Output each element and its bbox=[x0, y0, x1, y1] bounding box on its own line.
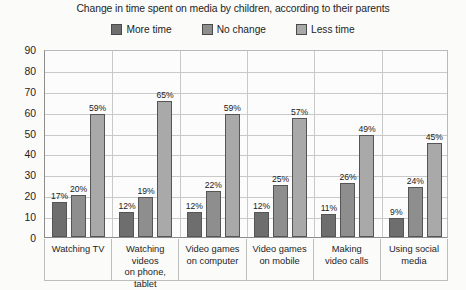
category-label: Video gameson computer bbox=[185, 244, 239, 267]
bar-item: 26% bbox=[340, 183, 355, 237]
category-label: Makingvideo calls bbox=[325, 244, 368, 267]
bar-value-label: 25% bbox=[272, 174, 289, 184]
y-axis-tick-80: 80 bbox=[0, 65, 36, 76]
bar bbox=[187, 212, 202, 237]
bar-item: 12% bbox=[187, 212, 202, 237]
bar bbox=[340, 183, 355, 237]
bar-item: 25% bbox=[273, 185, 288, 237]
chart-legend: More time No change Less time bbox=[0, 24, 466, 35]
bar-item: 49% bbox=[359, 135, 374, 237]
bar bbox=[71, 195, 86, 237]
plot-area: 17%20%59%12%19%65%12%22%59%12%25%57%11%2… bbox=[44, 50, 448, 238]
bar-value-label: 26% bbox=[339, 172, 356, 182]
bar bbox=[90, 114, 105, 237]
bar bbox=[157, 101, 172, 237]
bar-item: 65% bbox=[157, 101, 172, 237]
bar-value-label: 9% bbox=[390, 207, 402, 217]
y-axis-tick-60: 60 bbox=[0, 107, 36, 118]
y-axis-tick-10: 10 bbox=[0, 212, 36, 223]
y-axis-tick-40: 40 bbox=[0, 149, 36, 160]
bar-group: 12%25%57% bbox=[247, 51, 314, 237]
bar bbox=[52, 202, 67, 238]
bar-item: 59% bbox=[90, 114, 105, 237]
bar-value-label: 12% bbox=[118, 201, 135, 211]
bar-item: 22% bbox=[206, 191, 221, 237]
legend-label-less-time: Less time bbox=[311, 24, 355, 35]
legend-label-more-time: More time bbox=[126, 24, 171, 35]
legend-item-more-time: More time bbox=[111, 24, 171, 35]
bar-value-label: 22% bbox=[205, 180, 222, 190]
bar-group: 12%19%65% bbox=[112, 51, 179, 237]
bar-value-label: 59% bbox=[224, 103, 241, 113]
bar-group: 9%24%45% bbox=[382, 51, 449, 237]
bar-item: 59% bbox=[225, 114, 240, 237]
bar-value-label: 49% bbox=[358, 124, 375, 134]
legend-swatch-less-time bbox=[296, 24, 307, 35]
bar-groups: 17%20%59%12%19%65%12%22%59%12%25%57%11%2… bbox=[45, 51, 447, 237]
category-label-cell: Makingvideo calls bbox=[314, 239, 381, 280]
bar bbox=[119, 212, 134, 237]
bar-item: 12% bbox=[119, 212, 134, 237]
bar-value-label: 12% bbox=[253, 201, 270, 211]
y-axis-tick-50: 50 bbox=[0, 128, 36, 139]
bar bbox=[254, 212, 269, 237]
bar bbox=[389, 218, 404, 237]
bar bbox=[138, 197, 153, 237]
bar-item: 12% bbox=[254, 212, 269, 237]
category-label: Using socialmedia bbox=[389, 244, 439, 267]
bar bbox=[225, 114, 240, 237]
legend-swatch-more-time bbox=[111, 24, 122, 35]
bar-value-label: 59% bbox=[89, 103, 106, 113]
bar-item: 45% bbox=[427, 143, 442, 237]
bar-item: 20% bbox=[71, 195, 86, 237]
bar-value-label: 45% bbox=[426, 132, 443, 142]
bar bbox=[206, 191, 221, 237]
bar bbox=[427, 143, 442, 237]
y-axis-tick-30: 30 bbox=[0, 170, 36, 181]
category-label: Video gameson mobile bbox=[253, 244, 307, 267]
legend-item-less-time: Less time bbox=[296, 24, 355, 35]
bar-value-label: 17% bbox=[51, 191, 68, 201]
bar bbox=[321, 214, 336, 237]
bar bbox=[273, 185, 288, 237]
bar-group: 12%22%59% bbox=[180, 51, 247, 237]
bar-value-label: 19% bbox=[137, 186, 154, 196]
chart-title: Change in time spent on media by childre… bbox=[0, 3, 466, 14]
bar-value-label: 11% bbox=[321, 203, 338, 213]
bar-value-label: 65% bbox=[156, 90, 173, 100]
bar-group: 11%26%49% bbox=[314, 51, 381, 237]
bar-item: 17% bbox=[52, 202, 67, 238]
bar-value-label: 24% bbox=[407, 176, 424, 186]
category-label: Watching TV bbox=[52, 244, 105, 256]
legend-label-no-change: No change bbox=[217, 24, 266, 35]
y-axis-tick-20: 20 bbox=[0, 191, 36, 202]
bar-item: 57% bbox=[292, 118, 307, 237]
category-label-cell: Using socialmedia bbox=[381, 239, 447, 280]
bar-value-label: 57% bbox=[291, 107, 308, 117]
y-axis-tick-90: 90 bbox=[0, 45, 36, 56]
category-label-cell: Video gameson mobile bbox=[247, 239, 314, 280]
legend-item-no-change: No change bbox=[202, 24, 266, 35]
category-axis: Watching TVWatching videoson phone, tabl… bbox=[44, 239, 448, 281]
bar-item: 24% bbox=[408, 187, 423, 237]
category-label-cell: Watching videoson phone, tablet bbox=[112, 239, 179, 280]
bar-item: 11% bbox=[321, 214, 336, 237]
bar-value-label: 12% bbox=[186, 201, 203, 211]
category-label-cell: Watching TV bbox=[45, 239, 112, 280]
bar-item: 9% bbox=[389, 218, 404, 237]
y-axis-tick-70: 70 bbox=[0, 86, 36, 97]
bar-value-label: 20% bbox=[70, 184, 87, 194]
y-axis-tick-0: 0 bbox=[0, 233, 36, 244]
y-axis-labels: 0102030405060708090 bbox=[0, 0, 40, 286]
bar bbox=[408, 187, 423, 237]
bar-group: 17%20%59% bbox=[45, 51, 112, 237]
bar bbox=[359, 135, 374, 237]
bar-item: 19% bbox=[138, 197, 153, 237]
category-label: Watching videoson phone, tablet bbox=[112, 244, 178, 290]
legend-swatch-no-change bbox=[202, 24, 213, 35]
bar bbox=[292, 118, 307, 237]
category-label-cell: Video gameson computer bbox=[179, 239, 246, 280]
